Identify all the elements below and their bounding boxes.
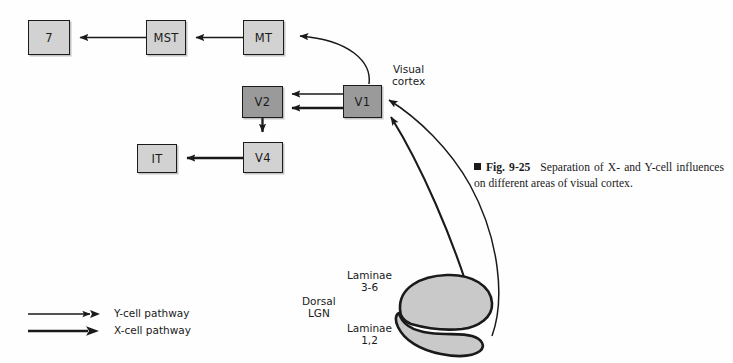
laminae-3-6-label: Laminae 3-6: [347, 269, 392, 294]
node-label-it: IT: [151, 152, 162, 166]
lgn-laminae-3-6-shape: [400, 275, 492, 330]
node-label-mt: MT: [255, 31, 273, 45]
visual-cortex-label: Visual cortex: [392, 63, 425, 88]
node-box-it[interactable]: IT: [137, 144, 177, 173]
dorsal-lgn-label: Dorsal LGN: [302, 295, 336, 320]
legend-arrow-x-cell: [28, 323, 108, 339]
connector-v1-to-mt: [300, 36, 369, 84]
caption-square-marker: [474, 163, 481, 170]
figure-caption: Fig. 9-25Separation of X- and Y-cell inf…: [474, 160, 724, 191]
node-box-7[interactable]: 7: [28, 20, 70, 55]
legend-item-y-cell: Y-cell pathway: [28, 306, 198, 323]
node-label-7: 7: [45, 31, 53, 45]
node-label-v4: V4: [255, 151, 271, 165]
node-label-v2: V2: [255, 95, 271, 109]
pathway-legend: Y-cell pathway X-cell pathway: [28, 306, 198, 340]
node-box-v1[interactable]: V1: [343, 85, 382, 118]
figure-number: Fig. 9-25: [486, 161, 530, 174]
legend-label-x-cell: X-cell pathway: [114, 324, 191, 336]
node-label-mst: MST: [153, 31, 178, 45]
legend-item-x-cell: X-cell pathway: [28, 323, 198, 340]
node-box-mst[interactable]: MST: [146, 20, 186, 55]
legend-label-y-cell: Y-cell pathway: [114, 307, 189, 319]
node-label-v1: V1: [355, 95, 371, 109]
node-box-mt[interactable]: MT: [243, 20, 284, 55]
figure-canvas: 7 MST MT V2 V1 V4 IT Visual cortex Dorsa…: [0, 0, 733, 363]
node-box-v2[interactable]: V2: [242, 86, 283, 118]
connector-laminae36-to-v1: [391, 117, 466, 283]
laminae-1-2-label: Laminae 1,2: [347, 322, 392, 347]
node-box-v4[interactable]: V4: [243, 142, 283, 173]
legend-arrow-y-cell: [28, 306, 108, 322]
